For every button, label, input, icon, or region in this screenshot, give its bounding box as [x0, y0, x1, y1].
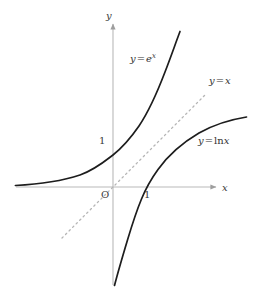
exponential-curve-label: y=ex	[130, 54, 156, 64]
logarithm-operator: =	[204, 135, 214, 146]
y-axis-label: y	[106, 11, 112, 21]
math-figure: y x O 1 1 y=ex y=x y=lnx	[0, 0, 269, 296]
exponential-operator: =	[136, 53, 146, 64]
logarithm-argument: x	[224, 135, 230, 146]
origin-label: O	[101, 190, 109, 200]
logarithm-function: ln	[214, 135, 224, 146]
exponential-exponent: x	[152, 52, 156, 60]
identity-lhs: y	[209, 75, 215, 86]
identity-line	[62, 94, 206, 238]
identity-rhs: x	[225, 75, 231, 86]
x-tick-label-1: 1	[144, 190, 150, 200]
x-axis-label: x	[222, 183, 228, 193]
logarithm-lhs: y	[198, 135, 204, 146]
plot-canvas	[0, 0, 269, 296]
logarithm-curve-label: y=lnx	[198, 136, 229, 146]
exponential-lhs: y	[130, 53, 136, 64]
identity-line-label: y=x	[209, 76, 231, 86]
identity-operator: =	[215, 75, 225, 86]
y-tick-label-1: 1	[99, 136, 105, 146]
